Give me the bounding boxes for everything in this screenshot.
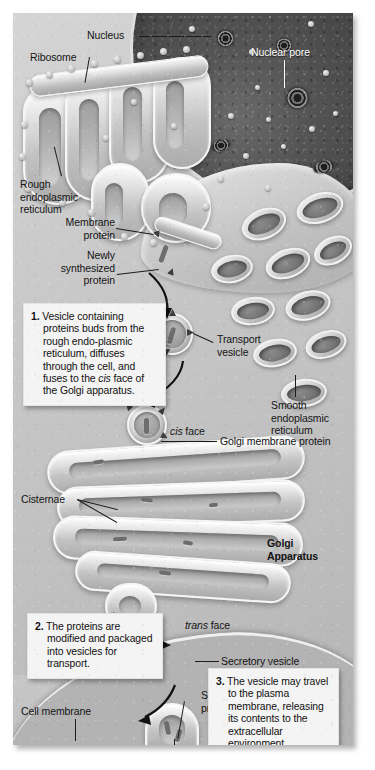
trans-face-rest: face <box>208 619 230 631</box>
ribosome-dot <box>46 71 53 78</box>
cell-secretion-diagram: Nucleus Nuclear pore Ribosome Rough endo… <box>0 0 375 770</box>
ribosome-dot <box>323 70 329 76</box>
ribosome-dot <box>160 48 167 55</box>
label-cell-membrane: Cell membrane <box>21 705 91 718</box>
leader-line-golgi-membrane-protein <box>161 441 217 442</box>
ribosome-dot <box>203 203 210 210</box>
step-1-caption-box: 1. Vesicle containing proteins buds from… <box>23 303 166 406</box>
label-membrane-protein: Membrane protein <box>63 216 115 241</box>
ribosome-dot <box>255 85 260 90</box>
ribosome-dot <box>150 239 157 246</box>
label-ribosome: Ribosome <box>30 51 76 64</box>
label-rough-er: Rough endoplasmic reticulum <box>20 178 78 216</box>
ribosome-dot <box>218 176 224 182</box>
arrow-secretory-vesicle-to-membrane <box>129 683 195 731</box>
rough-er-lumen <box>79 99 99 181</box>
leader-line-nucleus <box>139 36 211 37</box>
label-smooth-er: Smooth endoplasmic reticulum <box>271 399 329 437</box>
leader-line-extracellular-fluid <box>174 739 175 745</box>
label-cisternae: Cisternae <box>21 493 65 506</box>
label-golgi-membrane-protein: Golgi membrane protein <box>220 435 330 448</box>
nuclear-pore-icon <box>286 87 309 109</box>
smooth-er-tubule <box>302 325 350 364</box>
ribosome-dot <box>88 209 95 216</box>
step-2-body: The proteins are modified and packaged i… <box>43 621 152 669</box>
ribosome-dot <box>103 135 109 141</box>
ribosome-dot <box>281 144 286 149</box>
step-2-text: 2. The proteins are modified and package… <box>35 621 154 671</box>
ribosome-dot <box>68 65 75 72</box>
leader-line-smooth-er <box>295 375 296 397</box>
step-2-caption-box: 2. The proteins are modified and package… <box>27 613 163 679</box>
step-1-italic-word: cis <box>98 373 110 384</box>
label-cis-face: cis face <box>170 412 205 437</box>
rough-er-lumen <box>39 108 61 186</box>
ribosome-dot <box>228 113 234 119</box>
step-1-text: 1. Vesicle containing proteins buds from… <box>31 311 157 398</box>
rough-er-lumen <box>166 81 184 149</box>
leader-line-secretory-vesicle <box>195 661 219 662</box>
ribosome-dot <box>333 111 338 116</box>
label-nuclear-pore: Nuclear pore <box>251 46 310 59</box>
ribosome-dot <box>309 126 315 132</box>
ribosome-dot <box>19 153 26 160</box>
ribosome-dot <box>243 153 249 159</box>
label-nucleus: Nucleus <box>87 29 124 42</box>
ribosome-dot <box>91 60 98 67</box>
step-3-text: 3. The vesicle may travel to the plasma … <box>216 676 330 745</box>
leader-line-nuclear-pore <box>284 60 285 88</box>
label-golgi-apparatus: Golgi Apparatus <box>267 537 318 564</box>
ribosome-dot <box>26 79 33 86</box>
illustration-plate: Nucleus Nuclear pore Ribosome Rough endo… <box>13 13 353 745</box>
ribosome-dot <box>21 121 28 128</box>
ribosome-dot <box>114 56 121 63</box>
label-transport-vesicle: Transport vesicle <box>217 333 261 358</box>
nuclear-pore-icon <box>217 30 234 47</box>
ribosome-dot <box>266 117 271 122</box>
smooth-er-tubule <box>229 294 276 328</box>
label-trans-face: trans face <box>185 606 230 631</box>
cis-face-rest: face <box>183 425 205 437</box>
leader-line-transport-vesicle <box>193 333 214 343</box>
step-3-caption-box: 3. The vesicle may travel to the plasma … <box>208 668 339 745</box>
ribosome-dot <box>137 52 144 59</box>
ribosome-dot <box>171 123 177 129</box>
ribosome-dot <box>189 26 195 32</box>
ribosome-dot <box>121 233 128 240</box>
cis-face-italic-word: cis <box>170 425 183 437</box>
ribosome-dot <box>131 99 137 105</box>
ribosome-dot <box>183 46 190 53</box>
ribosome-dot <box>308 21 314 27</box>
ribosome-dot <box>265 185 271 191</box>
label-secretory-vesicle: Secretory vesicle <box>221 655 299 668</box>
step-3-body: The vesicle may travel to the plasma mem… <box>224 676 328 745</box>
label-newly-synthesized-protein: Newly synthesized protein <box>57 249 115 287</box>
leader-line-cell-membrane <box>75 719 76 741</box>
